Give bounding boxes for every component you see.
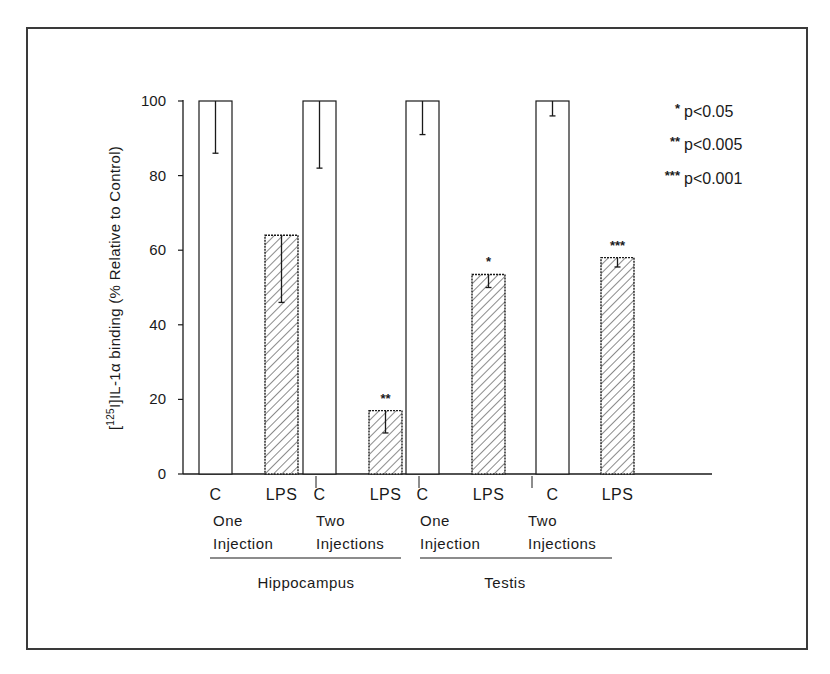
bar-lps: *** — [601, 238, 634, 474]
category-label-c: C — [416, 486, 428, 503]
y-axis-label: [125I]IL-1α binding (% Relative to Contr… — [105, 146, 123, 430]
subgroup-label: Injections — [528, 535, 596, 552]
bar-c — [199, 101, 232, 474]
category-label-c: C — [313, 486, 325, 503]
bar-chart: [125I]IL-1α binding (% Relative to Contr… — [0, 0, 830, 674]
y-tick-label: 20 — [149, 390, 166, 407]
legend-marker: ** — [670, 134, 681, 149]
legend-label: p<0.001 — [684, 170, 742, 187]
category-label-lps: LPS — [370, 486, 402, 503]
group-testis: Testis — [420, 558, 612, 591]
category-label-lps: LPS — [602, 486, 634, 503]
y-tick-label: 60 — [149, 241, 166, 258]
bar-lps: ** — [369, 391, 402, 474]
y-tick-label: 0 — [158, 465, 166, 482]
group-hippocampus: Hippocampus — [210, 558, 401, 591]
y-tick-label: 40 — [149, 316, 166, 333]
significance-marker: * — [486, 254, 492, 269]
subgroup-label: One — [213, 512, 243, 529]
category-label-c: C — [546, 486, 558, 503]
significance-legend: *p<0.05**p<0.005***p<0.001 — [665, 101, 743, 187]
subgroup-label: One — [420, 512, 450, 529]
y-tick-label: 100 — [141, 92, 166, 109]
significance-marker: ** — [380, 391, 391, 406]
bar-c — [303, 101, 336, 474]
bar-lps — [265, 235, 298, 474]
group-label-testis: Testis — [484, 574, 525, 591]
category-label-lps: LPS — [473, 486, 505, 503]
bar-lps: * — [472, 254, 505, 474]
category-label-lps: LPS — [266, 486, 298, 503]
subgroup-label: Injection — [213, 535, 273, 552]
legend-marker: *** — [665, 168, 681, 183]
subgroup-label: Two — [316, 512, 345, 529]
subgroup-label: Injection — [420, 535, 480, 552]
bars: ****** — [199, 101, 634, 474]
significance-marker: *** — [610, 238, 626, 253]
bar-c — [536, 101, 569, 474]
y-ticks: 020406080100 — [141, 92, 183, 482]
subgroup-label: Injections — [316, 535, 384, 552]
legend-label: p<0.005 — [684, 136, 742, 153]
y-tick-label: 80 — [149, 167, 166, 184]
category-labels: CLPSCLPSCLPSCLPS — [209, 476, 633, 503]
category-label-c: C — [209, 486, 221, 503]
legend-marker: * — [675, 101, 681, 116]
subgroup-labels: OneInjectionTwoInjectionsOneInjectionTwo… — [213, 512, 596, 552]
group-label-hippocampus: Hippocampus — [257, 574, 354, 591]
legend-label: p<0.05 — [684, 103, 733, 120]
bar-c — [406, 101, 439, 474]
subgroup-label: Two — [528, 512, 557, 529]
